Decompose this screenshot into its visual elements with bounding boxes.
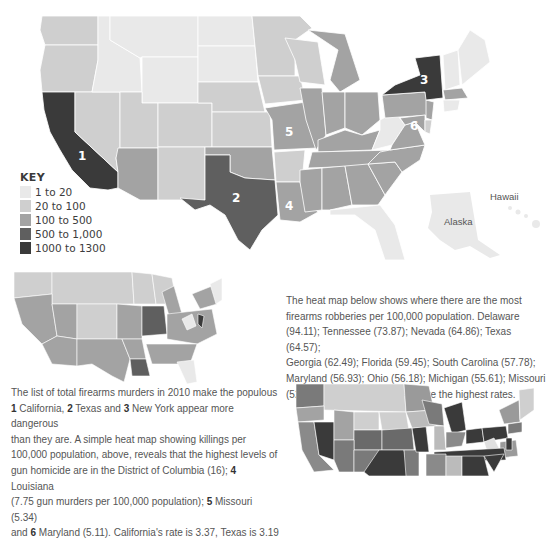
text-span: California, <box>17 403 68 414</box>
text-span: (7.75 gun murders per 100,000 population… <box>11 496 207 507</box>
legend-item: 500 to 1,000 <box>20 227 110 241</box>
text-line: Georgia (62.49); Florida (59.45); South … <box>286 355 546 371</box>
state-florida <box>330 205 405 260</box>
state-kansas <box>212 112 272 147</box>
legend-item: 100 to 500 <box>20 213 110 227</box>
state-vermont-nh <box>443 50 460 90</box>
map-label-california: 1 <box>78 149 86 163</box>
legend-swatch <box>20 186 31 198</box>
state-colorado <box>158 103 212 147</box>
text-span: gun homicide are in the District of Colu… <box>11 465 231 476</box>
text-span: and <box>11 527 30 538</box>
left-description: The list of total firearms murders in 20… <box>11 385 281 541</box>
per-capita-map-svg <box>12 264 222 384</box>
text-line: (7.75 gun murders per 100,000 population… <box>11 494 281 525</box>
legend-swatch <box>20 242 31 254</box>
legend-item: 20 to 100 <box>20 199 110 213</box>
text-line: The heat map below shows where there are… <box>286 293 546 309</box>
state-north-dakota <box>198 16 255 46</box>
legend-label: 100 to 500 <box>35 214 92 226</box>
hawaii-label: Hawaii <box>490 191 519 202</box>
state-hawaii <box>508 206 540 228</box>
state-new-york <box>382 55 443 100</box>
state-ohio <box>345 92 380 135</box>
map-label-new-york: 3 <box>420 73 428 87</box>
robbery-map-svg <box>294 380 534 476</box>
state-washington <box>40 16 98 45</box>
text-line: (94.11); Tennessee (73.87); Nevada (64.8… <box>286 324 546 355</box>
state-arizona <box>116 148 158 200</box>
state-maine <box>458 30 490 85</box>
legend-title: KEY <box>20 171 110 184</box>
legend-label: 1 to 20 <box>35 186 72 198</box>
text-span: Louisiana <box>11 481 54 492</box>
legend-label: 20 to 100 <box>35 200 86 212</box>
legend-swatch <box>20 200 31 212</box>
text-line: and 6 Maryland (5.11). California's rate… <box>11 525 281 541</box>
robbery-heat-map <box>294 380 534 476</box>
map-label-maryland: 6 <box>410 119 418 133</box>
text-line: 100,000 population, above, reveals that … <box>11 447 281 463</box>
state-connecticut-ri <box>443 100 460 112</box>
state-iowa <box>258 76 306 104</box>
text-span: Maryland (5.11). California's rate is 3.… <box>36 527 279 538</box>
alaska-label: Alaska <box>444 216 473 227</box>
map-label-louisiana: 4 <box>285 199 293 213</box>
state-massachusetts <box>443 88 468 100</box>
legend-label: 500 to 1,000 <box>35 228 102 240</box>
legend-label: 1000 to 1300 <box>35 242 106 254</box>
map-label-texas: 2 <box>232 191 240 205</box>
text-line: gun homicide are in the District of Colu… <box>11 463 281 494</box>
state-pennsylvania <box>382 92 430 118</box>
text-line: The list of total firearms murders in 20… <box>11 385 281 401</box>
state-oregon <box>40 45 98 92</box>
legend-swatch <box>20 214 31 226</box>
state-wyoming <box>142 57 198 103</box>
state-delaware <box>425 120 432 134</box>
text-line: 1 California, 2 Texas and 3 New York app… <box>11 401 281 432</box>
text-line: than they are. A simple heat map showing… <box>11 432 281 448</box>
per-capita-murder-map <box>12 264 222 384</box>
legend-item: 1000 to 1300 <box>20 241 110 255</box>
rank-number: 4 <box>231 465 237 476</box>
text-line: firearms robberies per 100,000 populatio… <box>286 309 546 325</box>
legend-item: 1 to 20 <box>20 185 110 199</box>
state-indiana <box>322 92 345 135</box>
text-span: Texas and <box>73 403 124 414</box>
state-new-jersey <box>426 100 434 120</box>
map-label-missouri: 5 <box>285 125 293 139</box>
state-south-dakota <box>198 46 258 82</box>
state-new-mexico <box>158 147 205 200</box>
map-legend: KEY 1 to 20 20 to 100 100 to 500 500 to … <box>20 171 110 255</box>
legend-swatch <box>20 228 31 240</box>
